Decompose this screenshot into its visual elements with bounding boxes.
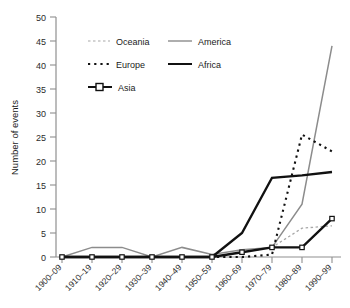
y-tick-label: 45	[36, 37, 46, 47]
data-point-marker	[270, 245, 274, 249]
data-point-marker	[120, 255, 124, 259]
data-point-marker	[150, 255, 154, 259]
data-point-marker	[180, 255, 184, 259]
y-tick-label: 30	[36, 109, 46, 119]
y-tick-label: 20	[36, 157, 46, 167]
y-tick-label: 25	[36, 133, 46, 143]
y-tick-label: 0	[41, 253, 46, 263]
y-tick-label: 40	[36, 61, 46, 71]
y-tick-label: 35	[36, 85, 46, 95]
legend-label-africa: Africa	[198, 60, 221, 70]
y-axis-title: Number of events	[9, 100, 20, 175]
data-point-marker	[60, 255, 64, 259]
chart-figure: 50 45 40 35 30 25 20 15 10 5 0 Number of…	[0, 0, 350, 308]
line-chart-canvas: 50 45 40 35 30 25 20 15 10 5 0 Number of…	[0, 0, 350, 308]
y-tick-label: 50	[36, 13, 46, 23]
legend-label-europe: Europe	[116, 60, 145, 70]
chart-background	[0, 0, 350, 308]
data-point-marker	[240, 250, 244, 254]
y-tick-label: 5	[41, 229, 46, 239]
legend-marker-asia	[96, 84, 103, 91]
y-tick-label: 15	[36, 181, 46, 191]
legend-label-oceania: Oceania	[116, 37, 150, 47]
data-point-marker	[330, 216, 334, 220]
data-point-marker	[210, 255, 214, 259]
legend-label-america: America	[198, 37, 231, 47]
legend-label-asia: Asia	[118, 83, 136, 93]
data-point-marker	[90, 255, 94, 259]
y-tick-label: 10	[36, 205, 46, 215]
data-point-marker	[300, 245, 304, 249]
